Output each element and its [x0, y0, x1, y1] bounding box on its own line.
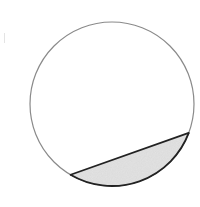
circle-segment-diagram	[0, 0, 200, 207]
